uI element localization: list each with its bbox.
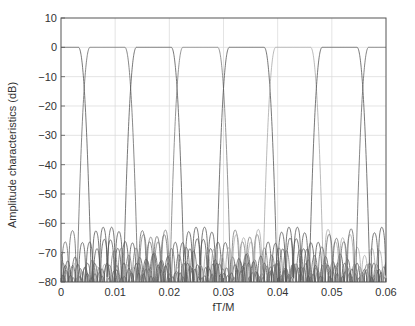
x-axis-label: fT/M <box>213 301 235 313</box>
y-axis-label: Amplitude characteristics (dB) <box>6 82 18 228</box>
x-tick-label: 0.06 <box>375 286 396 298</box>
y-tick-label: −10 <box>38 71 57 83</box>
x-axis-ticks: 00.010.020.030.040.050.06 <box>58 278 397 298</box>
x-tick-label: 0.04 <box>267 286 288 298</box>
y-tick-label: 10 <box>45 12 57 24</box>
x-tick-label: 0.03 <box>213 286 234 298</box>
y-tick-label: −30 <box>38 129 57 141</box>
y-tick-label: 0 <box>51 41 57 53</box>
y-tick-label: −50 <box>38 188 57 200</box>
y-tick-label: −80 <box>38 276 57 288</box>
y-tick-label: −40 <box>38 159 57 171</box>
y-tick-label: −20 <box>38 100 57 112</box>
y-tick-label: −70 <box>38 247 57 259</box>
y-tick-label: −60 <box>38 217 57 229</box>
x-tick-label: 0.01 <box>104 286 125 298</box>
x-tick-label: 0.05 <box>321 286 342 298</box>
x-tick-label: 0.02 <box>159 286 180 298</box>
chart: 00.010.020.030.040.050.06 100−10−20−30−4… <box>0 0 415 326</box>
grid-lines <box>61 18 386 282</box>
x-tick-label: 0 <box>58 286 64 298</box>
